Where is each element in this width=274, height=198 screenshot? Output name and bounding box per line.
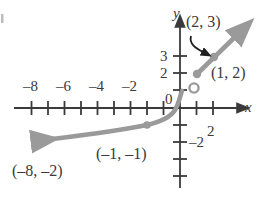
x-axis-name: x	[245, 100, 252, 115]
x-axis	[14, 101, 238, 115]
x-tick-label-2: 2	[207, 124, 215, 139]
y-tick-label-2: 2	[160, 66, 168, 81]
point-marker-neg1-neg1	[143, 121, 151, 129]
point-marker-2-3	[210, 53, 218, 61]
point-marker-neg8-neg2	[32, 137, 39, 144]
origin-label: 0	[165, 92, 173, 107]
y-tick-label-3: 3	[160, 49, 168, 64]
graph-figure: –8 –6 –4 –2 2 3 2 –2 0 x y (2, 3) (1, 2)…	[0, 0, 274, 198]
annotation-2-3: (2, 3)	[186, 14, 221, 30]
x-tick-label-neg8: –8	[23, 79, 38, 94]
y-axis-name: y	[173, 6, 180, 21]
x-tick-label-neg6: –6	[56, 79, 71, 94]
x-tick-label-neg2: –2	[122, 79, 137, 94]
annotation-neg8-neg2: (–8, –2)	[12, 163, 63, 179]
y-tick-label-neg2: –2	[189, 135, 204, 150]
annotation-neg1-neg1: (–1, –1)	[96, 146, 147, 162]
edge-mark	[1, 14, 4, 23]
point-marker-1-2	[193, 70, 201, 78]
open-circle-marker	[189, 83, 198, 92]
x-tick-label-neg4: –4	[89, 79, 104, 94]
callout-arrow-2-3	[191, 36, 205, 53]
annotation-1-2: (1, 2)	[211, 65, 246, 81]
curve-lower-branch	[36, 91, 182, 141]
